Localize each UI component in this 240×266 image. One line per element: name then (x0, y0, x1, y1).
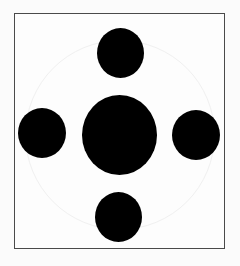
circle-top (97, 28, 144, 78)
circle-center (82, 95, 157, 175)
circle-bottom (95, 192, 142, 242)
circle-right (172, 110, 220, 160)
circle-left (18, 108, 66, 158)
